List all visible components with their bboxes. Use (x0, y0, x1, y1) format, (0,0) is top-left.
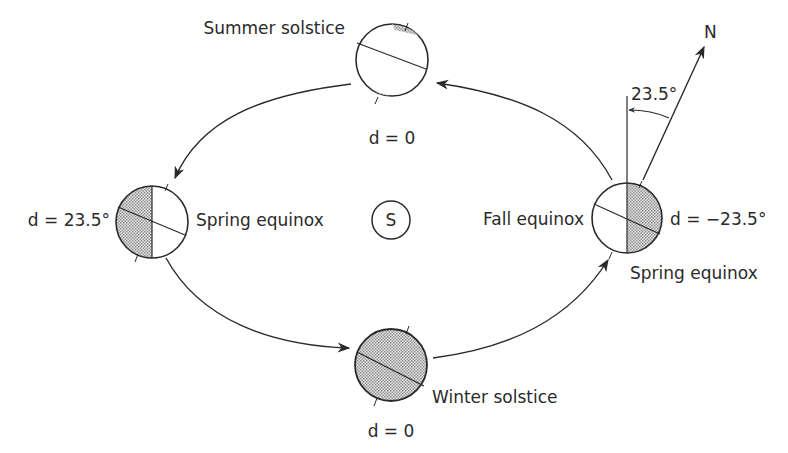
winter-declination-label: d = 0 (368, 421, 415, 441)
earth-winter-solstice (355, 326, 427, 406)
earth-left-equinox (116, 184, 188, 262)
left-declination-label: d = 23.5° (28, 210, 110, 230)
tilt-angle-label: 23.5° (631, 84, 677, 104)
orbit-diagram: S (0, 0, 788, 453)
orbit-arc-summer-to-left (175, 84, 351, 178)
axis-tilt-indicator (627, 47, 704, 183)
sun: S (372, 201, 410, 239)
orbit-arc-left-to-winter (166, 258, 349, 348)
summer-declination-label: d = 0 (369, 128, 416, 148)
earth-summer-solstice (356, 23, 430, 104)
right-spring-equinox-label: Spring equinox (630, 263, 758, 283)
tilt-angle-arc (629, 110, 669, 118)
orbit-arc-right-to-summer (437, 83, 612, 180)
sun-label: S (386, 210, 397, 230)
north-label: N (704, 22, 717, 42)
winter-solstice-label: Winter solstice (432, 387, 557, 407)
summer-solstice-label: Summer solstice (203, 18, 345, 38)
fall-equinox-label: Fall equinox (483, 209, 584, 229)
right-declination-label: d = −23.5° (670, 209, 766, 229)
orbit-arc-winter-to-right (433, 260, 608, 358)
earth-right-equinox (592, 181, 663, 259)
north-axis-arrow (643, 47, 704, 180)
left-equinox-label: Spring equinox (196, 210, 324, 230)
